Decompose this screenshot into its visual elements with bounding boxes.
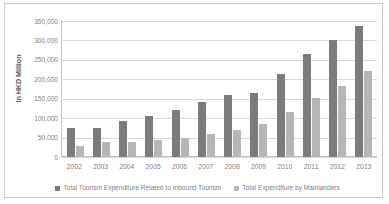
x-axis-tick: 2008 — [219, 161, 245, 172]
legend-label: Total Expenditure by Mainlanders — [242, 184, 340, 192]
gridline — [62, 157, 377, 158]
plot-area — [61, 21, 377, 157]
bar[interactable] — [172, 110, 180, 157]
bar[interactable] — [76, 146, 84, 157]
bar-group — [167, 21, 193, 157]
bar[interactable] — [67, 128, 75, 157]
bar[interactable] — [259, 124, 267, 157]
bar[interactable] — [303, 54, 311, 157]
bar-group — [351, 21, 377, 157]
bar[interactable] — [181, 138, 189, 157]
bars-layer — [62, 21, 377, 157]
bar[interactable] — [119, 121, 127, 157]
legend-swatch-icon — [234, 186, 239, 191]
bar-group — [141, 21, 167, 157]
chart-legend: Total Tourism Expenditure Related to Inb… — [25, 182, 370, 194]
bar-group — [298, 21, 324, 157]
x-axis-tick: 2005 — [140, 161, 166, 172]
bar-group — [272, 21, 298, 157]
bar-group — [62, 21, 88, 157]
chart-frame: in HKD Million 350,000300,000250,000200,… — [4, 3, 383, 198]
x-axis-tick: 2007 — [193, 161, 219, 172]
x-axis-tick: 2013 — [351, 161, 377, 172]
y-axis-tick: 100,000 — [23, 115, 58, 122]
legend-entry[interactable]: Total Tourism Expenditure Related to Inb… — [55, 184, 221, 192]
legend-label: Total Tourism Expenditure Related to Inb… — [63, 184, 221, 192]
bar-group — [246, 21, 272, 157]
bar[interactable] — [277, 74, 285, 157]
bar[interactable] — [102, 142, 110, 157]
bar[interactable] — [128, 142, 136, 157]
bar[interactable] — [250, 93, 258, 157]
y-axis-tick: 0 — [23, 154, 58, 161]
bar[interactable] — [364, 71, 372, 157]
x-axis-tick: 2006 — [166, 161, 192, 172]
bar[interactable] — [224, 95, 232, 157]
bar[interactable] — [355, 26, 363, 157]
bar[interactable] — [312, 98, 320, 157]
bar[interactable] — [154, 140, 162, 157]
y-axis-tick: 350,000 — [23, 18, 58, 25]
bar-group — [220, 21, 246, 157]
bar[interactable] — [338, 86, 346, 157]
bar[interactable] — [198, 102, 206, 157]
bar-group — [88, 21, 114, 157]
x-axis-tick: 2003 — [87, 161, 113, 172]
bar-group — [115, 21, 141, 157]
legend-swatch-icon — [55, 186, 60, 191]
bar[interactable] — [145, 116, 153, 157]
y-axis-tick: 200,000 — [23, 76, 58, 83]
x-axis-tick-labels: 2002200320042005200620072008200920102011… — [61, 161, 377, 172]
legend-entry[interactable]: Total Expenditure by Mainlanders — [234, 184, 340, 192]
bar[interactable] — [93, 128, 101, 157]
y-axis-title-label: in HKD Million — [14, 54, 23, 102]
bar[interactable] — [329, 40, 337, 157]
y-axis-tick: 250,000 — [23, 56, 58, 63]
x-axis-tick: 2009 — [245, 161, 271, 172]
bar[interactable] — [286, 112, 294, 157]
x-axis-tick: 2004 — [114, 161, 140, 172]
y-axis-tick: 150,000 — [23, 95, 58, 102]
bar-group — [325, 21, 351, 157]
y-axis-tick-labels: 350,000300,000250,000200,000150,000100,0… — [23, 17, 58, 159]
x-axis-tick: 2010 — [272, 161, 298, 172]
bar-group — [193, 21, 219, 157]
y-axis-tick: 50,000 — [23, 134, 58, 141]
y-axis-tick: 300,000 — [23, 37, 58, 44]
x-axis-tick: 2011 — [298, 161, 324, 172]
x-axis-tick: 2012 — [324, 161, 350, 172]
bar[interactable] — [233, 130, 241, 157]
bar[interactable] — [207, 134, 215, 157]
x-axis-tick: 2002 — [61, 161, 87, 172]
